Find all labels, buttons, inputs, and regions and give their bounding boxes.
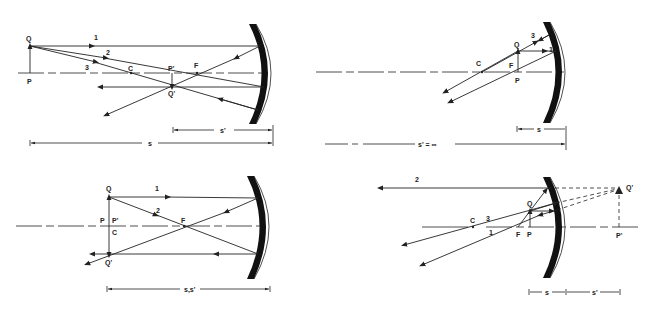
label-Q-prime: Q' <box>105 259 112 267</box>
label-Q: Q <box>106 185 112 193</box>
label-P-prime: P' <box>112 217 119 224</box>
dimension-s-prime-infinity: s' = ∞ <box>325 126 566 150</box>
label-Q: Q <box>26 35 32 43</box>
label-Q-prime: Q' <box>168 90 175 98</box>
svg-text:s: s <box>148 140 152 147</box>
concave-mirror <box>543 177 565 278</box>
svg-text:s,s': s,s' <box>184 286 196 294</box>
focal-point <box>183 225 185 227</box>
svg-text:s' = ∞: s' = ∞ <box>418 141 437 148</box>
svg-text:s': s' <box>220 127 226 134</box>
label-F: F <box>181 217 186 224</box>
diagram-object-at-focal-point: Q F P C 3 1 s s' = ∞ <box>316 22 566 150</box>
ray-2 <box>104 58 264 87</box>
label-Q: Q <box>527 200 533 208</box>
dimension-s: s <box>30 125 273 147</box>
label-P: P <box>527 231 532 238</box>
label-P-prime: P' <box>168 65 175 72</box>
label-C: C <box>476 60 481 67</box>
label-C: C <box>470 217 475 224</box>
label-ray-3: 3 <box>486 215 490 222</box>
label-F: F <box>516 231 521 238</box>
label-C: C <box>112 229 117 236</box>
dimension-s: s <box>517 126 565 133</box>
concave-mirror <box>543 22 565 123</box>
label-ray-1: 1 <box>94 34 98 41</box>
center-point <box>130 72 132 74</box>
diagram-object-at-center: Q 1 2 P P' C F Q' s,s' <box>16 176 270 294</box>
label-P: P <box>27 78 32 85</box>
label-P: P <box>515 77 520 84</box>
svg-text:s: s <box>537 126 541 133</box>
concave-mirror <box>247 176 269 279</box>
label-ray-2: 2 <box>156 207 160 214</box>
label-ray-1: 1 <box>549 46 553 53</box>
label-ray-1: 1 <box>489 229 493 236</box>
label-ray-2: 2 <box>106 49 110 56</box>
center-point <box>472 226 474 228</box>
center-point <box>481 71 483 73</box>
dimension-s-prime: s' <box>173 127 272 134</box>
concave-mirror <box>249 24 271 124</box>
dimension-s-prime: s' <box>566 289 620 296</box>
diagram-object-beyond-center: Q P 1 2 3 C F P' Q' s' s <box>18 24 273 147</box>
diagram-object-inside-focal-point: 2 Q C 3 1 F P Q' P' s s' <box>380 176 640 296</box>
label-Q-prime: Q' <box>626 184 633 192</box>
label-P-prime: P' <box>616 232 623 239</box>
svg-text:s: s <box>545 289 549 296</box>
label-ray-3: 3 <box>531 32 535 39</box>
label-Q: Q <box>514 41 520 49</box>
virtual-image-arrow <box>615 186 623 194</box>
label-P: P <box>100 217 105 224</box>
svg-text:s': s' <box>592 289 598 296</box>
dimension-s: s <box>529 289 565 296</box>
concave-mirror-ray-diagrams: Q P 1 2 3 C F P' Q' s' s <box>0 0 654 310</box>
label-C: C <box>128 65 133 72</box>
ray-2 <box>109 197 156 215</box>
label-ray-3: 3 <box>85 64 89 71</box>
label-F: F <box>509 62 514 69</box>
label-F: F <box>194 62 199 69</box>
dimension-s-s-prime: s,s' <box>107 286 270 294</box>
focal-point <box>196 72 198 74</box>
label-ray-1: 1 <box>155 185 159 192</box>
label-ray-2: 2 <box>415 176 419 183</box>
